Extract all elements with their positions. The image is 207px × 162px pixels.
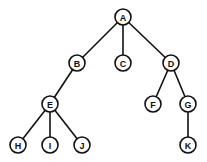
- edges: [18, 17, 188, 145]
- edge-a-d: [123, 17, 171, 63]
- node-d: D: [163, 55, 179, 71]
- node-label: A: [120, 13, 127, 23]
- node-h: H: [10, 137, 26, 153]
- node-label: D: [168, 59, 175, 69]
- node-label: I: [49, 141, 52, 151]
- node-i: I: [42, 137, 58, 153]
- node-j: J: [74, 137, 90, 153]
- node-g: G: [180, 96, 196, 112]
- node-label: H: [15, 141, 22, 151]
- node-label: F: [150, 100, 156, 110]
- edge-a-b: [77, 17, 123, 63]
- node-label: G: [184, 100, 191, 110]
- node-f: F: [145, 96, 161, 112]
- node-b: B: [69, 55, 85, 71]
- node-c: C: [115, 55, 131, 71]
- tree-diagram: ABCDEFGHIJK: [0, 0, 207, 162]
- node-label: J: [79, 141, 84, 151]
- node-label: B: [74, 59, 81, 69]
- nodes: ABCDEFGHIJK: [10, 9, 196, 153]
- node-a: A: [115, 9, 131, 25]
- node-label: K: [185, 141, 192, 151]
- node-e: E: [42, 96, 58, 112]
- node-label: E: [47, 100, 53, 110]
- node-label: C: [120, 59, 127, 69]
- node-k: K: [180, 137, 196, 153]
